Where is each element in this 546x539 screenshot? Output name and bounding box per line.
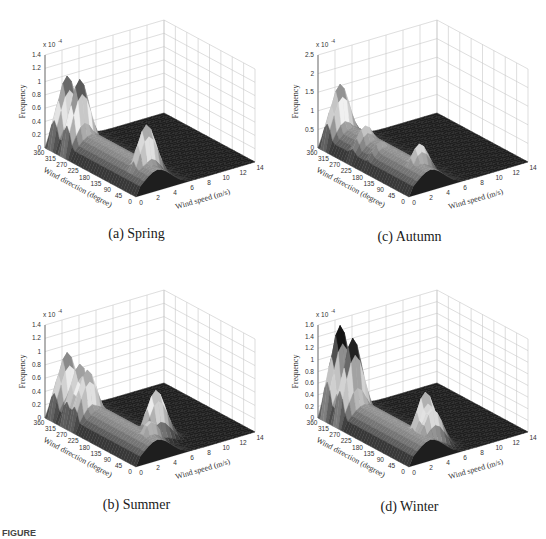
svg-text:225: 225 <box>341 167 352 174</box>
svg-text:360: 360 <box>307 419 318 426</box>
svg-text:225: 225 <box>341 437 352 444</box>
surface-plot-a: 00.20.40.60.811.21.436031527022518013590… <box>0 0 273 262</box>
figure-caption-label: FIGURE <box>2 528 36 538</box>
svg-text:135: 135 <box>90 450 101 457</box>
svg-text:0.4: 0.4 <box>32 118 41 125</box>
svg-text:90: 90 <box>377 186 385 193</box>
svg-text:0.2: 0.2 <box>32 131 41 138</box>
x-axis-label: Wind speed (m/s) <box>174 457 231 481</box>
caption-winter: (d) Winter <box>273 499 546 515</box>
svg-text:1.2: 1.2 <box>32 64 41 71</box>
svg-text:6: 6 <box>463 454 467 461</box>
svg-text:6: 6 <box>463 184 467 191</box>
svg-text:14: 14 <box>529 164 537 171</box>
x-axis-label: Wind speed (m/s) <box>447 457 504 481</box>
z-multiplier: x 10 <box>316 311 329 318</box>
svg-text:14: 14 <box>256 434 264 441</box>
svg-text:0: 0 <box>128 468 132 475</box>
z-axis-label: Frequency <box>291 355 300 389</box>
svg-text:10: 10 <box>495 174 503 181</box>
svg-text:12: 12 <box>512 169 520 176</box>
svg-text:90: 90 <box>377 456 385 463</box>
svg-text:315: 315 <box>318 155 329 162</box>
svg-text:180: 180 <box>79 444 90 451</box>
svg-text:12: 12 <box>239 439 247 446</box>
svg-text:0.6: 0.6 <box>32 374 41 381</box>
svg-text:0: 0 <box>412 199 416 206</box>
figure-caption: FIGURE <box>2 528 36 538</box>
svg-text:0: 0 <box>139 469 143 476</box>
svg-text:1: 1 <box>37 348 41 355</box>
svg-text:1.2: 1.2 <box>305 344 314 351</box>
svg-text:45: 45 <box>115 462 123 469</box>
svg-text:45: 45 <box>388 462 396 469</box>
svg-text:8: 8 <box>207 449 211 456</box>
svg-text:270: 270 <box>329 431 340 438</box>
svg-text:-4: -4 <box>58 39 62 44</box>
svg-text:0.2: 0.2 <box>305 403 314 410</box>
svg-text:10: 10 <box>495 444 503 451</box>
svg-text:-4: -4 <box>331 39 335 44</box>
svg-text:1.5: 1.5 <box>305 88 314 95</box>
panel-spring: 00.20.40.60.811.21.436031527022518013590… <box>0 0 273 262</box>
svg-text:0.8: 0.8 <box>305 368 314 375</box>
svg-text:2: 2 <box>429 194 433 201</box>
svg-text:315: 315 <box>45 425 56 432</box>
svg-text:1.4: 1.4 <box>32 51 41 58</box>
z-axis-label: Frequency <box>291 85 300 119</box>
svg-text:0.2: 0.2 <box>32 401 41 408</box>
svg-text:2: 2 <box>156 194 160 201</box>
svg-text:135: 135 <box>363 180 374 187</box>
svg-text:0.4: 0.4 <box>305 391 314 398</box>
svg-text:6: 6 <box>190 184 194 191</box>
svg-text:0: 0 <box>412 469 416 476</box>
panel-summer: 00.20.40.60.811.21.436031527022518013590… <box>0 270 273 532</box>
svg-text:225: 225 <box>68 437 79 444</box>
svg-text:1: 1 <box>37 78 41 85</box>
surface-plot-d: 00.20.40.60.811.21.41.636031527022518013… <box>273 270 546 532</box>
caption-spring: (a) Spring <box>0 226 273 242</box>
panel-winter: 00.20.40.60.811.21.41.636031527022518013… <box>273 270 546 532</box>
panel-autumn: 00.511.522.53603152702251801359045002468… <box>273 0 546 262</box>
svg-text:180: 180 <box>79 174 90 181</box>
svg-text:1.2: 1.2 <box>32 334 41 341</box>
svg-text:8: 8 <box>480 179 484 186</box>
caption-autumn: (c) Autumn <box>273 229 546 245</box>
z-multiplier: x 10 <box>43 311 56 318</box>
svg-text:4: 4 <box>173 189 177 196</box>
svg-text:4: 4 <box>173 459 177 466</box>
svg-text:1: 1 <box>310 356 314 363</box>
svg-text:1.4: 1.4 <box>305 333 314 340</box>
z-axis-label: Frequency <box>18 85 27 119</box>
caption-summer: (b) Summer <box>0 497 273 513</box>
svg-text:2.5: 2.5 <box>305 51 314 58</box>
svg-text:360: 360 <box>34 149 45 156</box>
svg-text:270: 270 <box>56 431 67 438</box>
svg-text:2: 2 <box>310 70 314 77</box>
surface-plot-c: 00.511.522.53603152702251801359045002468… <box>273 0 546 262</box>
svg-text:90: 90 <box>104 456 112 463</box>
svg-text:2: 2 <box>156 464 160 471</box>
svg-text:0: 0 <box>401 198 405 205</box>
svg-text:315: 315 <box>45 155 56 162</box>
svg-text:0: 0 <box>128 198 132 205</box>
svg-text:12: 12 <box>512 439 520 446</box>
svg-text:1: 1 <box>310 107 314 114</box>
z-axis-label: Frequency <box>18 355 27 389</box>
svg-text:14: 14 <box>529 434 537 441</box>
svg-text:360: 360 <box>34 419 45 426</box>
svg-text:315: 315 <box>318 425 329 432</box>
svg-text:0: 0 <box>139 199 143 206</box>
svg-text:180: 180 <box>352 174 363 181</box>
svg-text:135: 135 <box>363 450 374 457</box>
surface-plot-b: 00.20.40.60.811.21.436031527022518013590… <box>0 270 273 532</box>
svg-text:360: 360 <box>307 149 318 156</box>
svg-text:0.8: 0.8 <box>32 91 41 98</box>
svg-text:6: 6 <box>190 454 194 461</box>
svg-text:10: 10 <box>222 444 230 451</box>
svg-text:270: 270 <box>329 161 340 168</box>
svg-text:2: 2 <box>429 464 433 471</box>
svg-text:180: 180 <box>352 444 363 451</box>
svg-text:-4: -4 <box>58 309 62 314</box>
svg-text:0.6: 0.6 <box>305 379 314 386</box>
